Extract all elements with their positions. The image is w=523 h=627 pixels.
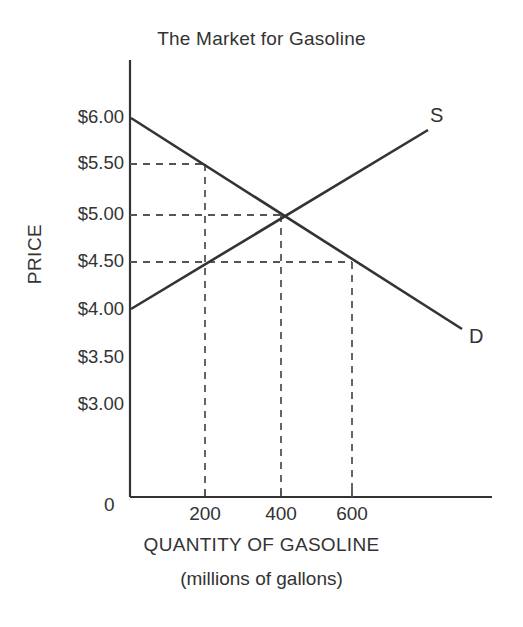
y-tick-label-5-50: $5.50 bbox=[50, 152, 124, 174]
x-tick-label-200: 200 bbox=[175, 503, 235, 525]
supply-curve-label: S bbox=[430, 104, 443, 127]
x-axis-subtitle: (millions of gallons) bbox=[0, 568, 523, 590]
demand-curve bbox=[131, 118, 462, 329]
x-axis-title: QUANTITY OF GASOLINE bbox=[0, 534, 523, 556]
y-tick-label-3-50: $3.50 bbox=[50, 346, 124, 368]
origin-label: 0 bbox=[104, 494, 115, 516]
demand-curve-label: D bbox=[469, 325, 483, 348]
gasoline-market-chart: The Market for Gasoline $6.00 $5.50 $5.0… bbox=[0, 0, 523, 627]
y-tick-label-3-00: $3.00 bbox=[50, 393, 124, 415]
supply-curve bbox=[131, 130, 428, 309]
x-tick-label-400: 400 bbox=[251, 503, 311, 525]
y-tick-label-6-00: $6.00 bbox=[50, 106, 124, 128]
y-axis-title: PRICE bbox=[24, 189, 46, 319]
y-tick-label-4-00: $4.00 bbox=[50, 298, 124, 320]
y-tick-label-5-00: $5.00 bbox=[50, 203, 124, 225]
y-tick-label-4-50: $4.50 bbox=[50, 250, 124, 272]
x-tick-label-600: 600 bbox=[322, 503, 382, 525]
